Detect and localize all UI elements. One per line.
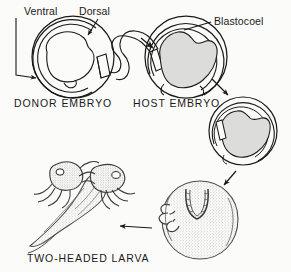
ventral-label: Ventral [24, 6, 57, 17]
two-headed-larva-caption: TWO-HEADED LARVA [27, 253, 150, 264]
embryo-transplantation-figure: Ventral Dorsal Blastocoel DONOR EMBRYO H… [0, 0, 291, 272]
host-embryo-caption: HOST EMBRYO [133, 98, 220, 109]
figure-illustration [0, 0, 291, 272]
donor-embryo-caption: DONOR EMBRYO [14, 98, 112, 109]
dorsal-label: Dorsal [79, 6, 110, 17]
blastocoel-label: Blastocoel [214, 16, 263, 27]
